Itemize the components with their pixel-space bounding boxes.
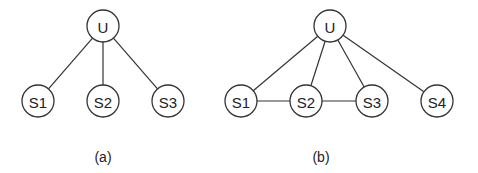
node-label: S3	[363, 94, 381, 111]
caption-b: (b)	[312, 149, 329, 165]
node-b-s4: S4	[421, 85, 453, 117]
node-b-u: U	[314, 10, 346, 42]
node-a-u: U	[87, 10, 119, 42]
node-label: U	[325, 19, 336, 36]
node-b-s3: S3	[356, 85, 388, 117]
node-label: S4	[428, 94, 446, 111]
diagram-a: US1S2S3(a)	[22, 10, 184, 165]
node-label: S3	[159, 94, 177, 111]
node-label: S1	[232, 94, 250, 111]
edge-a-u-s1	[48, 38, 92, 89]
edge-b-u-s4	[343, 35, 424, 92]
node-label: S1	[29, 94, 47, 111]
edge-b-u-s1	[253, 36, 318, 90]
node-b-s1: S1	[225, 85, 257, 117]
graph-diagram-canvas: US1S2S3(a) US1S2S3S4(b)	[0, 0, 478, 173]
node-a-s2: S2	[87, 85, 119, 117]
node-b-s2: S2	[290, 85, 322, 117]
node-label: S2	[297, 94, 315, 111]
edge-a-u-s3	[113, 38, 157, 89]
edge-b-u-s2	[311, 41, 325, 86]
diagram-b: US1S2S3S4(b)	[225, 10, 453, 165]
node-a-s3: S3	[152, 85, 184, 117]
node-label: S2	[94, 94, 112, 111]
caption-a: (a)	[94, 149, 111, 165]
node-a-s1: S1	[22, 85, 54, 117]
node-label: U	[98, 19, 109, 36]
